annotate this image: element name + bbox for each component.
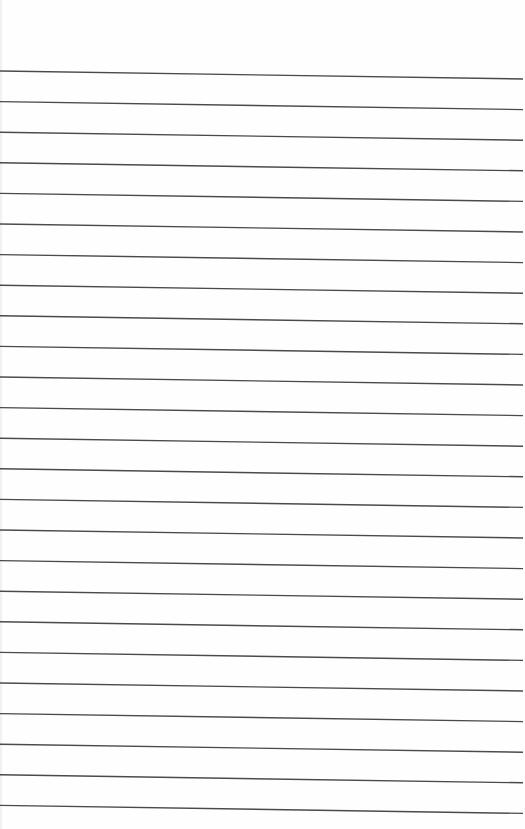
ruled-line: [0, 193, 523, 201]
ruled-line: [0, 377, 523, 385]
ruled-line: [0, 744, 523, 752]
ruled-line: [0, 530, 523, 538]
ruled-line: [0, 591, 523, 599]
ruled-line: [0, 775, 523, 783]
ruled-line: [0, 714, 523, 722]
ruled-lines: [0, 0, 525, 829]
ruled-line: [0, 255, 523, 263]
ruled-line: [0, 499, 523, 507]
ruled-line: [0, 805, 523, 813]
ruled-line: [0, 622, 523, 630]
ruled-line: [0, 71, 523, 79]
ruled-line: [0, 132, 523, 140]
ruled-line: [0, 163, 523, 171]
ruled-line: [0, 346, 523, 354]
ruled-line: [0, 652, 523, 660]
ruled-line: [0, 408, 523, 416]
ruled-line: [0, 224, 523, 232]
ruled-line: [0, 438, 523, 446]
ruled-line: [0, 469, 523, 477]
ruled-line: [0, 683, 523, 691]
ruled-line: [0, 316, 523, 324]
ruled-line: [0, 102, 523, 110]
ruled-line: [0, 285, 523, 293]
ruled-line: [0, 561, 523, 569]
lined-paper-sheet: [0, 0, 525, 829]
